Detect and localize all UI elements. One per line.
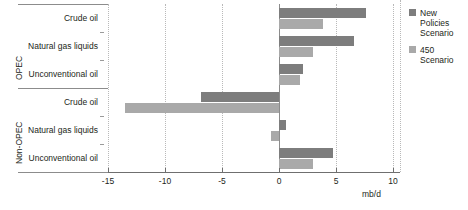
gridline-5 — [336, 4, 338, 172]
group-label-non-opec: Non-OPEC — [14, 121, 24, 164]
bar-non-opec-unconventional-oil-450-scenario — [279, 159, 313, 169]
group-divider — [18, 88, 108, 89]
x-axis-unit-label: mb/d — [362, 189, 381, 199]
bar-opec-natural-gas-liquids-450-scenario — [279, 47, 313, 57]
legend-label: New Policies Scenario — [420, 8, 454, 38]
x-axis-tick-label-5: 5 — [334, 176, 339, 186]
category-tick — [100, 144, 104, 145]
group-divider — [18, 4, 108, 5]
gridline--10 — [165, 4, 167, 172]
bar-non-opec-unconventional-oil-new-policies-scenario — [279, 148, 333, 158]
x-axis-tick-label--5: -5 — [218, 176, 226, 186]
category-label-opec-natural-gas-liquids: Natural gas liquids — [28, 41, 98, 51]
legend-label: 450 Scenario — [420, 45, 454, 65]
x-axis-tick--15 — [108, 168, 109, 173]
legend-item-new-policies-scenario[interactable]: New Policies Scenario — [409, 8, 467, 38]
bar-non-opec-natural-gas-liquids-new-policies-scenario — [279, 120, 286, 130]
bar-opec-unconventional-oil-new-policies-scenario — [279, 64, 303, 74]
category-tick — [100, 60, 104, 61]
gridline--15 — [108, 4, 110, 172]
legend-swatch-icon — [409, 9, 416, 16]
category-label-non-opec-natural-gas-liquids: Natural gas liquids — [28, 125, 98, 135]
plot-area — [108, 4, 393, 172]
bar-opec-crude-oil-new-policies-scenario — [279, 8, 366, 18]
category-tick — [100, 32, 104, 33]
gridline--5 — [222, 4, 224, 172]
x-axis-tick--10 — [165, 168, 166, 173]
bar-opec-crude-oil-450-scenario — [279, 19, 323, 29]
x-axis-tick-10 — [393, 168, 394, 173]
legend-divider — [400, 0, 402, 172]
x-axis-tick-0 — [279, 168, 280, 173]
x-axis-tick-label--10: -10 — [159, 176, 171, 186]
x-axis-tick-label-10: 10 — [388, 176, 397, 186]
bar-non-opec-crude-oil-450-scenario — [125, 103, 279, 113]
group-divider — [18, 172, 108, 173]
category-label-non-opec-crude-oil: Crude oil — [64, 97, 98, 107]
bar-non-opec-crude-oil-new-policies-scenario — [201, 92, 279, 102]
x-axis-tick-5 — [336, 168, 337, 173]
bar-opec-unconventional-oil-450-scenario — [279, 75, 300, 85]
category-tick — [100, 116, 104, 117]
bar-opec-natural-gas-liquids-new-policies-scenario — [279, 36, 354, 46]
gridline-10 — [393, 4, 395, 172]
legend-swatch-icon — [409, 46, 416, 53]
category-label-opec-unconventional-oil: Unconventional oil — [29, 69, 98, 79]
x-axis-tick-label-0: 0 — [277, 176, 282, 186]
category-label-non-opec-unconventional-oil: Unconventional oil — [29, 153, 98, 163]
chart-legend: New Policies Scenario450 Scenario — [409, 8, 467, 72]
category-label-opec-crude-oil: Crude oil — [64, 13, 98, 23]
legend-item-450-scenario[interactable]: 450 Scenario — [409, 45, 467, 65]
x-axis-tick-label--15: -15 — [102, 176, 114, 186]
x-axis-tick--5 — [222, 168, 223, 173]
bar-non-opec-natural-gas-liquids-450-scenario — [271, 131, 279, 141]
group-label-opec: OPEC — [14, 56, 24, 80]
zero-axis-line — [279, 4, 281, 172]
chart-figure: Crude oilNatural gas liquidsUnconvention… — [0, 0, 468, 210]
